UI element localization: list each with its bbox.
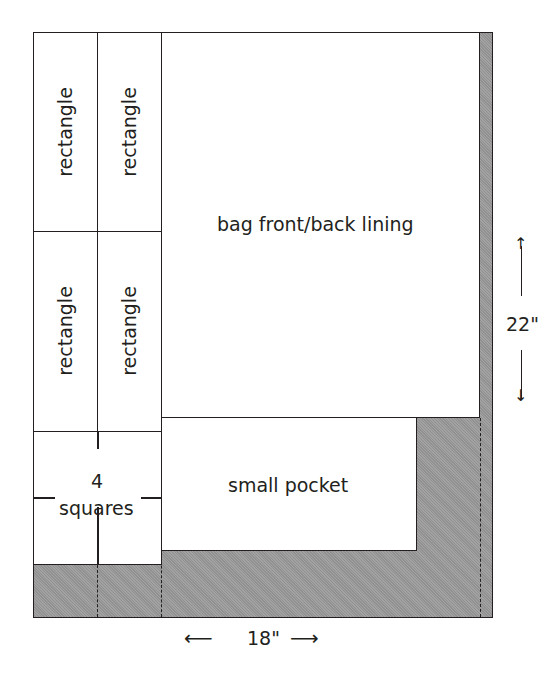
cut-line-1: [97, 565, 98, 617]
height-label: 22": [506, 313, 539, 335]
cut-line-3: [480, 418, 481, 617]
squares-divider-right: [141, 497, 162, 499]
pocket-label: small pocket: [228, 474, 348, 496]
rectangle-label-3: rectangle: [54, 286, 76, 376]
arrow-down-icon: ↓: [514, 386, 527, 405]
squares-count: 4: [91, 470, 103, 492]
rectangle-label-4: rectangle: [118, 286, 140, 376]
squares-divider-left: [33, 497, 55, 499]
arrow-left-icon: ⟵: [184, 626, 213, 650]
arrow-right-icon: ⟶: [290, 626, 319, 650]
squares-divider-top: [97, 431, 99, 449]
rectangle-label-1: rectangle: [54, 87, 76, 177]
lining-label: bag front/back lining: [217, 213, 414, 235]
rectangle-label-2: rectangle: [118, 87, 140, 177]
cut-line-2: [161, 551, 162, 617]
width-label: 18": [247, 627, 280, 649]
height-arrow-up-line: [521, 246, 522, 296]
squares-label: squares: [59, 497, 134, 519]
arrow-up-icon: ↑: [514, 234, 527, 253]
